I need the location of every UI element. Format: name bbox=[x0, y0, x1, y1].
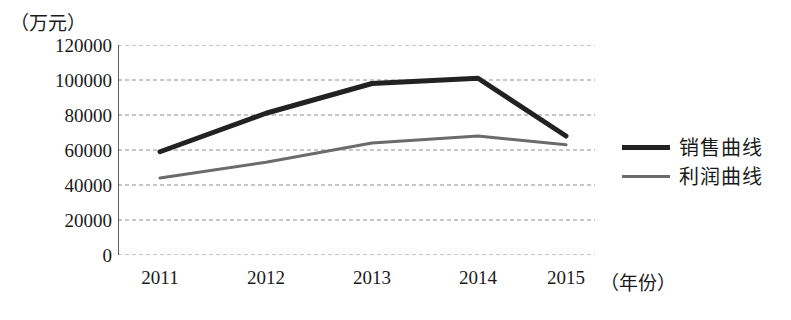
plot-area bbox=[118, 45, 595, 255]
y-tick-label-20000: 20000 bbox=[12, 211, 112, 230]
y-axis-tick-labels: 0 20000 40000 60000 80000 100000 120000 bbox=[8, 45, 112, 255]
y-tick-label-0: 0 bbox=[12, 246, 112, 265]
x-tick-label-2015: 2015 bbox=[547, 268, 585, 287]
legend-item-sales: 销售曲线 bbox=[622, 133, 787, 162]
y-tick-label-80000: 80000 bbox=[12, 106, 112, 125]
legend-item-profit: 利润曲线 bbox=[622, 162, 787, 191]
x-tick-label-2013: 2013 bbox=[353, 268, 391, 287]
gridlines bbox=[118, 45, 595, 255]
y-tick-label-120000: 120000 bbox=[12, 36, 112, 55]
y-tick-label-40000: 40000 bbox=[12, 176, 112, 195]
y-axis-unit-label: （万元） bbox=[10, 8, 86, 35]
x-tick-label-2011: 2011 bbox=[141, 268, 178, 287]
legend-label-sales: 销售曲线 bbox=[679, 138, 763, 158]
legend-swatch-profit-icon bbox=[622, 175, 670, 178]
x-tick-label-2012: 2012 bbox=[247, 268, 285, 287]
line-chart: （万元） 0 20000 40000 60000 80000 100000 12… bbox=[0, 0, 791, 320]
chart-legend: 销售曲线 利润曲线 bbox=[622, 133, 787, 191]
legend-label-profit: 利润曲线 bbox=[679, 167, 763, 187]
legend-swatch-sales-icon bbox=[622, 145, 670, 150]
y-tick-label-60000: 60000 bbox=[12, 141, 112, 160]
x-axis-tick-labels: 2011 2012 2013 2014 2015 bbox=[118, 268, 595, 298]
series-line-profit bbox=[160, 136, 566, 178]
x-axis-unit-label: （年份） bbox=[600, 268, 676, 295]
y-tick-label-100000: 100000 bbox=[12, 71, 112, 90]
x-tick-label-2014: 2014 bbox=[459, 268, 497, 287]
